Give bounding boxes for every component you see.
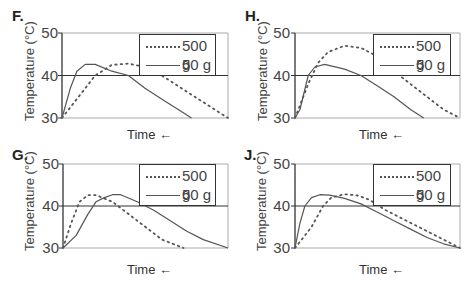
y-tick-30: 30 — [266, 239, 290, 256]
y-tick-40: 40 — [35, 197, 59, 214]
y-tick-40: 40 — [266, 197, 290, 214]
legend: 500 g 50 g — [373, 34, 451, 76]
legend-item-500g: 500 g — [374, 37, 450, 55]
y-tick-30: 30 — [266, 109, 290, 126]
y-tick-50: 50 — [34, 24, 58, 41]
y-tick-40: 40 — [34, 67, 58, 84]
legend-item-50g: 50 g — [140, 56, 215, 74]
y-tick-30: 30 — [34, 109, 58, 126]
x-axis-label: Time ← — [127, 262, 172, 277]
x-axis-label: Time ← — [359, 127, 404, 142]
y-tick-30: 30 — [35, 239, 59, 256]
x-axis-label: Time ← — [127, 127, 172, 142]
y-tick-50: 50 — [35, 155, 59, 172]
x-axis-label: Time ← — [359, 262, 404, 277]
legend-item-500g: 500 g — [140, 37, 215, 55]
legend-item-50g: 50 g — [374, 186, 450, 204]
legend: 500 g 50 g — [139, 34, 216, 76]
legend-item-500g: 500 g — [140, 167, 215, 185]
y-tick-50: 50 — [266, 155, 290, 172]
y-tick-50: 50 — [266, 24, 290, 41]
y-tick-40: 40 — [266, 67, 290, 84]
legend: 500 g 50 g — [373, 164, 451, 206]
legend: 500 g 50 g — [139, 164, 216, 206]
legend-item-50g: 50 g — [374, 56, 450, 74]
legend-item-500g: 500 g — [374, 167, 450, 185]
legend-item-50g: 50 g — [140, 186, 215, 204]
